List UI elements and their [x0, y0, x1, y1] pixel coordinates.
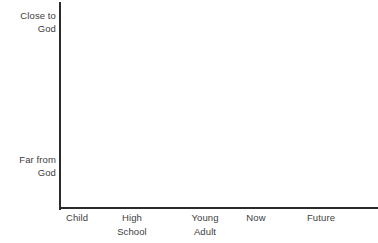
y-axis-label-close-to-god: Close to God [0, 9, 56, 35]
chart-figure: Close to God Far from God Child High Sch… [0, 0, 378, 243]
x-axis-label-future-line1: Future [296, 211, 346, 225]
x-axis-label-future: Future [296, 211, 346, 225]
y-axis-label-far-from-god-line2: God [0, 166, 56, 179]
x-axis-label-young-adult: Young Adult [180, 211, 230, 239]
plot-area [61, 2, 378, 207]
y-axis-label-far-from-god-line1: Far from [0, 153, 56, 166]
x-axis-label-high-school: High School [107, 211, 157, 239]
x-axis-label-young-adult-line2: Adult [180, 225, 230, 239]
x-axis-label-high-school-line1: High [107, 211, 157, 225]
x-axis-label-young-adult-line1: Young [180, 211, 230, 225]
x-axis-line [59, 207, 378, 209]
x-axis-label-now-line1: Now [231, 211, 281, 225]
y-axis-label-close-to-god-line2: God [0, 22, 56, 35]
y-axis-label-close-to-god-line1: Close to [0, 9, 56, 22]
x-axis-label-child: Child [52, 211, 102, 225]
x-axis-label-child-line1: Child [52, 211, 102, 225]
y-axis-label-far-from-god: Far from God [0, 153, 56, 179]
x-axis-label-now: Now [231, 211, 281, 225]
x-axis-label-high-school-line2: School [107, 225, 157, 239]
